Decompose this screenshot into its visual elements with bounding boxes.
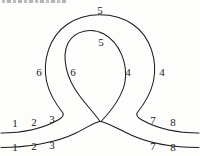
region-label: 7 (146, 141, 160, 152)
region-label: 5 (94, 37, 108, 48)
region-label: 1 (8, 142, 22, 153)
region-label: 4 (155, 67, 169, 78)
knot-curve-svg (0, 0, 200, 156)
region-label: 4 (121, 67, 135, 78)
region-label: 1 (8, 118, 22, 129)
region-label: 6 (32, 67, 46, 78)
region-label: 7 (146, 115, 160, 126)
region-label: 2 (27, 141, 41, 152)
region-label: 8 (166, 117, 180, 128)
region-label: 8 (166, 142, 180, 153)
knot-diagram-figure: 5 5 6 6 4 4 1 2 3 1 2 3 7 8 7 8 (0, 0, 200, 156)
region-label: 3 (45, 114, 59, 125)
region-label: 2 (27, 117, 41, 128)
region-label: 5 (93, 5, 107, 16)
region-label: 6 (66, 67, 80, 78)
region-label: 3 (45, 140, 59, 151)
